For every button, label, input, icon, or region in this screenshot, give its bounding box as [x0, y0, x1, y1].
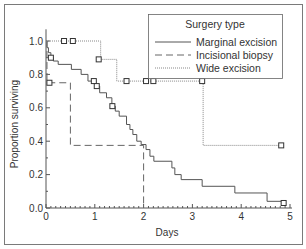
- y-tick-label: 0.6: [29, 102, 43, 113]
- y-axis-label: Proportion surviving: [9, 80, 20, 168]
- legend-label-incisional: Incisional biopsy: [196, 49, 274, 61]
- censor-marker: [48, 55, 53, 60]
- censor-marker: [70, 39, 75, 44]
- x-tick-label: 0: [43, 211, 49, 222]
- x-tick-label: 5: [287, 211, 293, 222]
- censor-marker: [281, 200, 286, 205]
- legend-label-marginal: Marginal excision: [196, 36, 277, 48]
- censor-marker: [110, 104, 115, 109]
- y-tick-label: 0.2: [29, 169, 43, 180]
- survival-chart: 0123450.00.20.40.60.81.0 Surgery type Ma…: [0, 0, 306, 249]
- x-tick-label: 3: [190, 211, 196, 222]
- x-tick-label: 2: [141, 211, 147, 222]
- censor-marker: [151, 79, 156, 84]
- censor-marker: [124, 79, 129, 84]
- censor-marker: [62, 39, 67, 44]
- y-tick-label: 0.0: [29, 203, 43, 214]
- y-tick-label: 1.0: [29, 36, 43, 47]
- censor-marker: [94, 84, 99, 89]
- legend-label-wide: Wide excision: [196, 62, 261, 74]
- x-tick-label: 4: [238, 211, 244, 222]
- x-axis-label: Days: [156, 227, 179, 238]
- censor-marker: [200, 79, 205, 84]
- y-tick-label: 0.4: [29, 136, 43, 147]
- censor-marker: [144, 79, 149, 84]
- x-tick-label: 1: [92, 211, 98, 222]
- legend: Surgery type Marginal excision Incisiona…: [149, 15, 283, 79]
- legend-title: Surgery type: [185, 18, 245, 30]
- y-tick-label: 0.8: [29, 69, 43, 80]
- censor-marker: [96, 57, 101, 62]
- censor-marker: [279, 143, 284, 148]
- censor-marker: [91, 79, 96, 84]
- censor-marker: [47, 80, 52, 85]
